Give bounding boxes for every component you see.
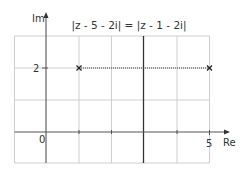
imaginary-axis-label: Im bbox=[32, 13, 45, 24]
real-axis-arrow-icon bbox=[224, 130, 230, 135]
origin-label: 0 bbox=[39, 134, 45, 145]
argand-diagram: |z - 5 - 2i| = |z - 1 - 2i| Im Re 0 5 2 bbox=[0, 0, 245, 171]
real-axis-label: Re bbox=[223, 137, 236, 148]
equation-title: |z - 5 - 2i| = |z - 1 - 2i| bbox=[71, 19, 186, 32]
axes bbox=[15, 12, 231, 163]
x-tick-label-5: 5 bbox=[206, 138, 212, 149]
y-tick-label-2: 2 bbox=[33, 63, 39, 74]
